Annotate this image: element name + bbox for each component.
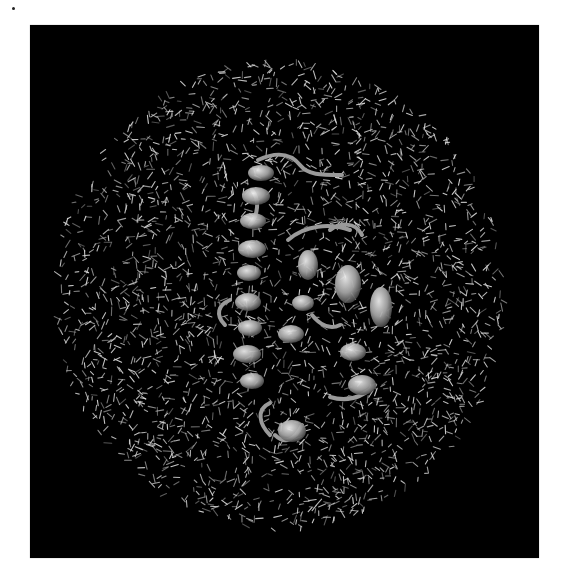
page-marker-dot <box>12 7 15 10</box>
molecule-scene <box>30 25 539 558</box>
molecule-viewport[interactable] <box>30 25 539 558</box>
water-molecules <box>54 60 507 532</box>
protein-cartoon <box>219 155 392 442</box>
